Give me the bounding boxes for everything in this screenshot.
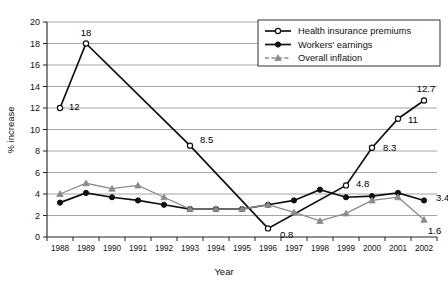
x-tick-label: 1998 bbox=[311, 244, 330, 253]
data-point-label: 12.7 bbox=[417, 83, 436, 94]
data-point-label: 4.8 bbox=[356, 178, 369, 189]
y-tick-label: 0 bbox=[35, 232, 40, 242]
line-chart: 02468101214161820 1988198919901991199219… bbox=[0, 0, 448, 286]
marker-open-circle bbox=[265, 226, 270, 231]
x-tick-label: 1988 bbox=[51, 244, 70, 253]
y-tick-label: 18 bbox=[30, 39, 40, 49]
x-tick-label: 1995 bbox=[233, 244, 252, 253]
legend-label: Health insurance premiums bbox=[298, 26, 412, 36]
x-axis-title: Year bbox=[214, 266, 233, 277]
legend-label: Workers' earnings bbox=[298, 40, 373, 50]
data-point-label: 8.3 bbox=[383, 142, 396, 153]
marker-open-circle bbox=[421, 98, 426, 103]
y-tick-label: 12 bbox=[30, 103, 40, 113]
marker-open-circle bbox=[369, 145, 374, 150]
x-tick-label: 1993 bbox=[181, 244, 200, 253]
data-point-label: 8.5 bbox=[200, 134, 213, 145]
y-tick-label: 16 bbox=[30, 60, 40, 70]
marker-open-circle bbox=[343, 183, 348, 188]
x-tick-label: 1997 bbox=[285, 244, 304, 253]
marker-filled-circle bbox=[291, 198, 296, 203]
y-tick-label: 10 bbox=[30, 125, 40, 135]
y-tick-label: 8 bbox=[35, 146, 40, 156]
marker-open-circle bbox=[395, 116, 400, 121]
x-tick-label: 1992 bbox=[155, 244, 174, 253]
legend-label: Overall inflation bbox=[298, 53, 362, 63]
marker-open-circle bbox=[187, 143, 192, 148]
marker-filled-circle bbox=[161, 202, 166, 207]
x-tick-label: 1990 bbox=[103, 244, 122, 253]
marker-filled-circle bbox=[109, 195, 114, 200]
marker-filled-circle bbox=[421, 198, 426, 203]
chart-legend: Health insurance premiumsWorkers' earnin… bbox=[258, 20, 440, 66]
data-point-label: 3.4 bbox=[436, 192, 448, 203]
x-tick-label: 2001 bbox=[389, 244, 408, 253]
x-tick-label: 1999 bbox=[337, 244, 356, 253]
x-tick-label: 1991 bbox=[129, 244, 148, 253]
y-tick-label: 2 bbox=[35, 211, 40, 221]
marker-filled-circle bbox=[83, 190, 88, 195]
marker-filled-circle bbox=[317, 187, 322, 192]
data-point-label: 0.8 bbox=[280, 229, 293, 240]
x-tick-label: 2002 bbox=[415, 244, 434, 253]
data-point-label: 18 bbox=[81, 27, 92, 38]
y-tick-label: 20 bbox=[30, 17, 40, 27]
marker-filled-circle bbox=[57, 200, 62, 205]
x-tick-label: 1996 bbox=[259, 244, 278, 253]
marker-open-circle bbox=[57, 105, 62, 110]
y-tick-label: 14 bbox=[30, 82, 40, 92]
chart-container: 02468101214161820 1988198919901991199219… bbox=[0, 0, 448, 286]
marker-filled-circle bbox=[275, 42, 280, 47]
x-tick-label: 1989 bbox=[77, 244, 96, 253]
marker-open-circle bbox=[83, 41, 88, 46]
data-point-label: 12 bbox=[69, 101, 80, 112]
data-point-label: 1.6 bbox=[428, 225, 441, 236]
x-tick-label: 1994 bbox=[207, 244, 226, 253]
marker-filled-circle bbox=[343, 195, 348, 200]
y-axis-title: % increase bbox=[5, 107, 16, 154]
x-tick-label: 2000 bbox=[363, 244, 382, 253]
data-point-label: 11 bbox=[408, 114, 418, 125]
marker-open-circle bbox=[275, 28, 280, 33]
y-tick-label: 4 bbox=[35, 189, 40, 199]
marker-filled-circle bbox=[135, 198, 140, 203]
y-tick-label: 6 bbox=[35, 168, 40, 178]
